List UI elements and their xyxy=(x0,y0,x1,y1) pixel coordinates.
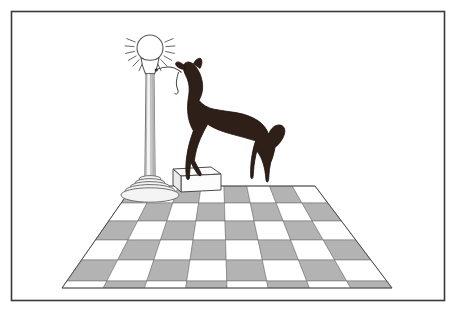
light-bulb xyxy=(137,35,163,61)
floor-tile xyxy=(154,240,193,260)
scene-artwork xyxy=(0,0,457,311)
floor-tile xyxy=(103,281,147,288)
floor-tile xyxy=(196,203,225,221)
floor-tile xyxy=(347,281,392,288)
floor-tile xyxy=(227,281,268,288)
lamp-column-highlight xyxy=(147,74,150,181)
illustration-canvas xyxy=(0,0,457,311)
floor-tile xyxy=(224,186,250,203)
arm-joint-dot xyxy=(155,68,158,71)
floor-tile xyxy=(187,260,227,281)
floor-tile xyxy=(267,281,310,288)
floor-tile xyxy=(193,221,226,240)
floor-tile xyxy=(225,203,255,221)
floor-tile xyxy=(147,260,190,281)
floor-tile xyxy=(161,221,196,240)
floor-tile xyxy=(225,221,258,240)
floor-tile xyxy=(226,260,267,281)
floor-tile xyxy=(190,240,226,260)
floor-tile xyxy=(62,281,107,288)
floor-tile xyxy=(186,281,227,288)
floor-tile xyxy=(307,281,351,288)
lamp-base-ring-5 xyxy=(121,188,179,202)
floor-tile xyxy=(145,281,187,288)
floor-tile xyxy=(226,240,263,260)
